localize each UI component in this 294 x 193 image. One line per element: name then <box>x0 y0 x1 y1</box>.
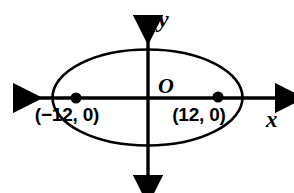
point-dot-left-vertex <box>71 93 82 104</box>
point-dot-right-vertex <box>213 92 224 103</box>
diagram-canvas: y x O (−12, 0) (12, 0) <box>0 0 294 193</box>
point-label-right-vertex: (12, 0) <box>172 104 226 125</box>
y-axis-label: y <box>155 6 169 32</box>
origin-label: O <box>158 73 174 98</box>
x-axis-label: x <box>265 107 278 132</box>
ellipse-coordinate-diagram: y x O (−12, 0) (12, 0) <box>0 0 294 193</box>
point-label-left-vertex: (−12, 0) <box>35 104 99 125</box>
